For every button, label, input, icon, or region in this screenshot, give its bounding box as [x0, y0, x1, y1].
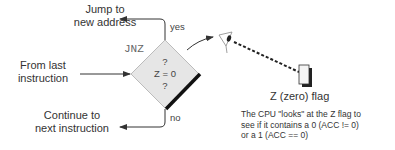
look-arrow — [187, 37, 213, 50]
continue-label: Continue to next instruction — [22, 109, 122, 135]
jump-label-line1: Jump to — [60, 3, 150, 16]
from-last-label: From last instruction — [3, 59, 83, 85]
no-label: no — [170, 111, 181, 124]
description-line3: or a 1 (ACC == 0) — [241, 130, 361, 141]
jump-label: Jump to new address — [60, 3, 150, 29]
decision-line1: ? — [145, 56, 185, 68]
z-flag-icon — [299, 65, 312, 87]
decision-line2: Z = 0 — [145, 68, 185, 80]
eye-icon — [219, 32, 232, 53]
continue-line2: next instruction — [22, 122, 122, 135]
description-line2: see if it contains a 0 (ACC != 0) — [241, 120, 361, 131]
description-line1: The CPU "looks" at the Z flag to — [241, 109, 361, 120]
jump-label-line2: new address — [60, 16, 150, 29]
continue-line1: Continue to — [22, 109, 122, 122]
from-last-line2: instruction — [3, 72, 83, 85]
decision-line3: ? — [145, 80, 185, 92]
yes-label: yes — [170, 20, 185, 33]
description: The CPU "looks" at the Z flag to see if … — [241, 109, 361, 141]
sight-line — [234, 42, 299, 72]
z-flag-label: Z (zero) flag — [270, 90, 329, 103]
no-arrow — [120, 109, 165, 127]
decision-text: ? Z = 0 ? — [145, 56, 185, 92]
from-last-line1: From last — [3, 59, 83, 72]
instruction-label: JNZ — [124, 43, 144, 56]
